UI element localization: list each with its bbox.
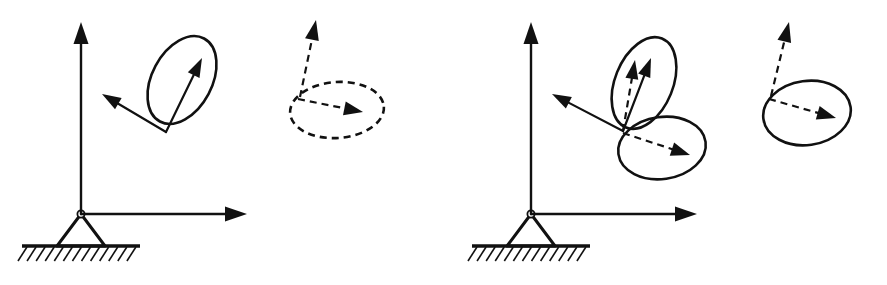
canvas-background <box>0 0 887 285</box>
diagram-canvas <box>0 0 887 285</box>
figure-root: Rigid body rotation and precession about… <box>0 0 887 285</box>
